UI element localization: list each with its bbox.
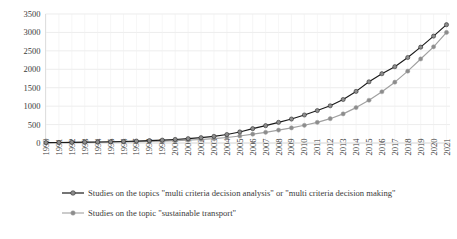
data-point-marker xyxy=(328,117,332,121)
data-point-marker xyxy=(44,141,48,145)
x-tick-label: 2020 xyxy=(429,139,439,156)
legend-item-label: Studies on the topics "multi criteria de… xyxy=(88,188,396,198)
y-tick-label: 3000 xyxy=(24,27,41,37)
data-point-marker xyxy=(199,136,203,140)
y-axis-tick-labels: 0500100015002000250030003500 xyxy=(24,9,41,148)
x-tick-label: 2005 xyxy=(235,139,245,156)
data-point-marker xyxy=(251,132,255,136)
x-tick-label: 2015 xyxy=(364,139,374,156)
x-tick-label: 2004 xyxy=(222,138,232,156)
data-point-marker xyxy=(328,104,332,108)
x-tick-label: 2013 xyxy=(338,139,348,156)
x-tick-label: 2009 xyxy=(286,139,296,156)
x-tick-label: 2017 xyxy=(390,139,400,156)
chart-container: 0500100015002000250030003500 19901991199… xyxy=(0,0,457,239)
data-point-marker xyxy=(134,139,138,143)
data-point-marker xyxy=(367,80,371,84)
y-tick-label: 1000 xyxy=(24,101,41,111)
data-point-marker xyxy=(380,90,384,94)
data-point-marker xyxy=(444,23,448,27)
x-tick-label: 2003 xyxy=(209,139,219,156)
axis-lines xyxy=(46,14,451,143)
legend-item-label: Studies on the topic "sustainable transp… xyxy=(88,208,236,218)
data-point-marker xyxy=(341,112,345,116)
x-tick-label: 2012 xyxy=(325,139,335,156)
data-point-marker xyxy=(341,97,345,101)
data-point-marker xyxy=(406,55,410,59)
data-point-marker xyxy=(354,106,358,110)
legend-marker-swatch xyxy=(71,191,76,196)
legend-marker-swatch xyxy=(71,211,76,216)
x-tick-label: 2007 xyxy=(261,139,271,156)
data-point-marker xyxy=(444,30,448,34)
x-tick-label: 2011 xyxy=(312,139,322,156)
data-point-marker xyxy=(354,89,358,93)
data-point-marker xyxy=(393,65,397,69)
x-tick-label: 2016 xyxy=(377,139,387,156)
data-point-marker xyxy=(419,57,423,61)
data-point-marker xyxy=(173,137,177,141)
data-point-marker xyxy=(302,123,306,127)
x-tick-label: 2019 xyxy=(416,139,426,156)
data-point-marker xyxy=(225,132,229,136)
x-axis-tick-labels: 1990199119921993199419951996199719981999… xyxy=(41,138,452,156)
gridlines xyxy=(46,14,451,143)
data-point-marker xyxy=(238,130,242,134)
data-series-layer xyxy=(44,23,449,145)
data-point-marker xyxy=(289,126,293,130)
data-point-marker xyxy=(186,137,190,141)
data-point-marker xyxy=(108,140,112,144)
data-point-marker xyxy=(70,140,74,144)
line-chart: 0500100015002000250030003500 19901991199… xyxy=(0,0,457,239)
data-point-marker xyxy=(264,130,268,134)
data-point-marker xyxy=(160,138,164,142)
data-point-marker xyxy=(147,139,151,143)
y-tick-label: 500 xyxy=(28,120,41,130)
x-tick-label: 2006 xyxy=(248,139,258,156)
x-tick-label: 2008 xyxy=(274,139,284,156)
data-point-marker xyxy=(276,128,280,132)
data-point-marker xyxy=(315,120,319,124)
x-tick-label: 2014 xyxy=(351,138,361,156)
data-point-marker xyxy=(83,140,87,144)
data-point-marker xyxy=(57,140,61,144)
data-point-marker xyxy=(431,34,435,38)
data-point-marker xyxy=(393,80,397,84)
data-point-marker xyxy=(367,98,371,102)
y-tick-label: 2000 xyxy=(24,64,41,74)
y-tick-label: 3500 xyxy=(24,9,41,19)
x-tick-label: 2010 xyxy=(299,139,309,156)
data-point-marker xyxy=(419,45,423,49)
data-point-marker xyxy=(251,127,255,131)
data-point-marker xyxy=(431,45,435,49)
data-point-marker xyxy=(406,69,410,73)
y-tick-label: 0 xyxy=(36,138,40,148)
x-tick-label: 2021 xyxy=(442,139,452,156)
data-point-marker xyxy=(238,134,242,138)
data-point-marker xyxy=(302,113,306,117)
chart-legend: Studies on the topics "multi criteria de… xyxy=(62,188,396,218)
data-point-marker xyxy=(380,72,384,76)
data-point-marker xyxy=(264,124,268,128)
series-line xyxy=(46,25,447,143)
data-point-marker xyxy=(96,140,100,144)
data-point-marker xyxy=(276,120,280,124)
y-tick-label: 2500 xyxy=(24,46,41,56)
y-tick-label: 1500 xyxy=(24,83,41,93)
x-tick-label: 2018 xyxy=(403,139,413,156)
data-point-marker xyxy=(121,139,125,143)
data-point-marker xyxy=(315,108,319,112)
data-point-marker xyxy=(289,117,293,121)
data-point-marker xyxy=(212,134,216,138)
